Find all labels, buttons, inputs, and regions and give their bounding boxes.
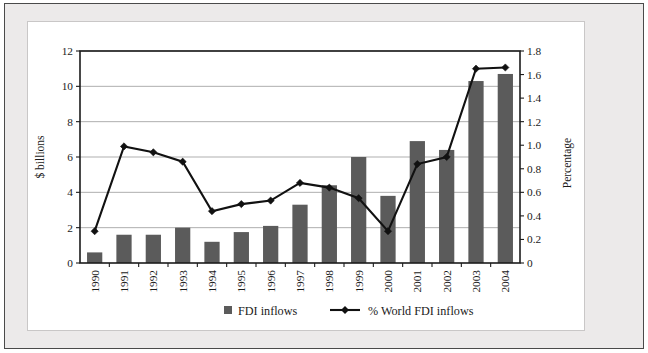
y2-axis-tick-label: 1.0 bbox=[527, 139, 541, 151]
y-axis-tick-label: 6 bbox=[67, 151, 73, 163]
line-marker-1992[interactable] bbox=[150, 149, 157, 156]
y2-axis-tick-label: 0.8 bbox=[527, 163, 541, 175]
x-axis-label-1991: 1991 bbox=[118, 270, 130, 293]
bars-group bbox=[87, 74, 513, 263]
legend-label-world-fdi: % World FDI inflows bbox=[368, 304, 474, 318]
y-axis-tick-label: 8 bbox=[67, 116, 73, 128]
y2-axis-tick-label: 0.4 bbox=[527, 210, 541, 222]
chart-panel: 02468101200.20.40.60.81.01.21.41.61.8199… bbox=[27, 21, 585, 331]
legend-label-fdi-inflows: FDI inflows bbox=[238, 304, 298, 318]
x-axis-label-2002: 2002 bbox=[441, 270, 453, 293]
x-axis-label-2001: 2001 bbox=[411, 270, 423, 293]
chart-plot-area: 02468101200.20.40.60.81.01.21.41.61.8199… bbox=[28, 22, 584, 330]
x-axis-label-1998: 1998 bbox=[323, 270, 335, 293]
x-axis-label-2004: 2004 bbox=[499, 270, 511, 293]
bar-1996[interactable] bbox=[263, 226, 278, 263]
line-marker-2003[interactable] bbox=[472, 65, 479, 72]
y2-axis-tick-label: 0.6 bbox=[527, 186, 541, 198]
bar-1992[interactable] bbox=[146, 235, 161, 263]
y-axis-tick-label: 2 bbox=[67, 222, 73, 234]
y-axis-title: $ billions bbox=[34, 135, 46, 179]
figure-outer-frame: 02468101200.20.40.60.81.01.21.41.61.8199… bbox=[4, 3, 644, 349]
x-axis-label-1995: 1995 bbox=[235, 270, 247, 293]
y2-axis-tick-label: 1.8 bbox=[527, 45, 541, 57]
bar-1999[interactable] bbox=[351, 157, 366, 263]
line-marker-1995[interactable] bbox=[238, 201, 245, 208]
bar-2004[interactable] bbox=[498, 74, 513, 263]
line-marker-1990[interactable] bbox=[91, 228, 98, 235]
y2-axis-tick-label: 1.2 bbox=[527, 116, 541, 128]
bar-2003[interactable] bbox=[468, 81, 483, 263]
fdi-inflows-combo-chart: 02468101200.20.40.60.81.01.21.41.61.8199… bbox=[28, 22, 586, 332]
y-axis-tick-label: 12 bbox=[62, 45, 74, 57]
line-marker-2004[interactable] bbox=[502, 64, 509, 71]
x-axis-label-1990: 1990 bbox=[89, 270, 101, 293]
y2-axis-tick-label: 1.4 bbox=[527, 92, 541, 104]
bar-1997[interactable] bbox=[292, 205, 307, 263]
line-marker-1991[interactable] bbox=[120, 143, 127, 150]
x-axis-label-1993: 1993 bbox=[177, 270, 189, 293]
bar-1993[interactable] bbox=[175, 228, 190, 263]
y-axis-tick-label: 0 bbox=[67, 257, 73, 269]
y2-axis-title: Percentage bbox=[561, 138, 574, 188]
x-axis-label-2000: 2000 bbox=[382, 270, 394, 293]
y-axis-tick-label: 10 bbox=[62, 80, 74, 92]
bar-1998[interactable] bbox=[322, 185, 337, 263]
x-axis-label-1996: 1996 bbox=[265, 270, 277, 293]
y-axis-tick-label: 4 bbox=[67, 186, 73, 198]
bar-1991[interactable] bbox=[116, 235, 131, 263]
bar-1990[interactable] bbox=[87, 252, 102, 263]
bar-1994[interactable] bbox=[204, 242, 219, 263]
x-axis-label-1994: 1994 bbox=[206, 270, 218, 293]
y2-axis-tick-label: 0 bbox=[527, 257, 533, 269]
legend-swatch-fdi-inflows bbox=[224, 306, 232, 314]
x-axis-label-1992: 1992 bbox=[147, 270, 159, 293]
x-axis-label-1999: 1999 bbox=[353, 270, 365, 293]
legend-marker-world-fdi bbox=[341, 306, 349, 314]
bar-1995[interactable] bbox=[234, 232, 249, 263]
y2-axis-tick-label: 1.6 bbox=[527, 69, 541, 81]
y2-axis-tick-label: 0.2 bbox=[527, 233, 541, 245]
legend-group: FDI inflows% World FDI inflows bbox=[224, 304, 474, 318]
x-axis-label-2003: 2003 bbox=[470, 270, 482, 293]
bar-2001[interactable] bbox=[410, 141, 425, 263]
bar-2002[interactable] bbox=[439, 150, 454, 263]
x-axis-label-1997: 1997 bbox=[294, 270, 306, 293]
